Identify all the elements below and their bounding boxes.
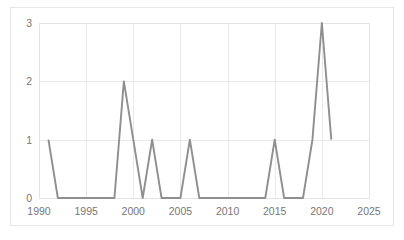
x-tick-label: 2015 <box>263 205 287 217</box>
data-series-line <box>48 23 331 198</box>
y-tick-label: 1 <box>26 134 32 146</box>
x-axis-tick-labels: 19901995200020052010201520202025 <box>27 205 381 217</box>
chart-frame: 0123 19901995200020052010201520202025 <box>10 7 394 226</box>
x-tick-label: 2020 <box>310 205 334 217</box>
x-tick-label: 2010 <box>216 205 240 217</box>
y-axis-tick-labels: 0123 <box>26 17 32 204</box>
y-tick-label: 2 <box>26 75 32 87</box>
y-tick-label: 3 <box>26 17 32 29</box>
x-tick-label: 2005 <box>169 205 193 217</box>
y-tick-label: 0 <box>26 192 32 204</box>
x-tick-label: 1995 <box>74 205 98 217</box>
x-tick-label: 2000 <box>122 205 146 217</box>
line-chart: 0123 19901995200020052010201520202025 <box>11 8 393 225</box>
x-tick-label: 2025 <box>357 205 381 217</box>
x-tick-label: 1990 <box>27 205 51 217</box>
